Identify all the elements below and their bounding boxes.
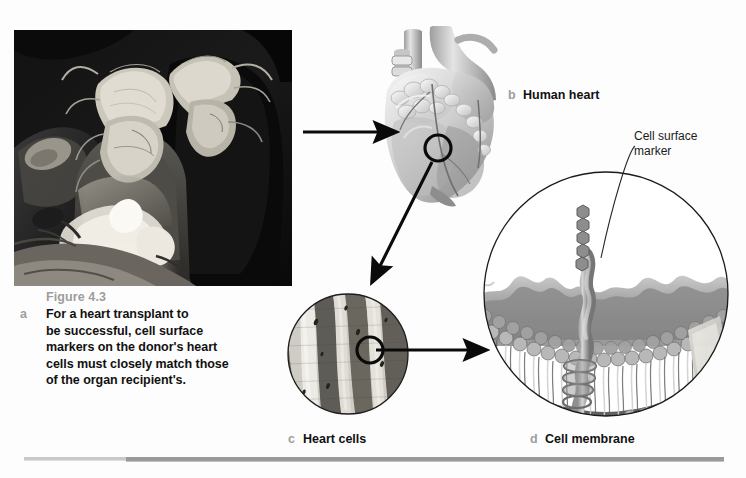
caption-line-4: cells must closely match those <box>46 357 229 371</box>
human-heart-illustration <box>360 26 508 218</box>
panel-label-text-d: Cell membrane <box>545 432 635 447</box>
panel-label-text-c: Heart cells <box>303 432 366 447</box>
carbohydrate-bead <box>576 205 589 271</box>
callout-line-2: marker <box>634 144 671 158</box>
panel-letter-a: a <box>20 306 46 323</box>
panel-letter-d: d <box>530 432 545 447</box>
caption-line-5: of the organ recipient's. <box>46 373 186 387</box>
surgery-photograph <box>14 30 292 286</box>
panel-label-text-b: Human heart <box>523 88 599 103</box>
caption-body: For a heart transplant to be successful,… <box>46 306 229 389</box>
caption-line-3: markers on the donor's heart <box>46 340 217 354</box>
figure-caption: Figure 4.3 a For a heart transplant to b… <box>20 290 270 389</box>
cell-membrane-illustration <box>482 170 730 418</box>
panel-label-c: c Heart cells <box>288 432 366 447</box>
panel-label-d: d Cell membrane <box>530 432 635 447</box>
figure-number: Figure 4.3 <box>46 290 270 305</box>
bottom-rule <box>0 452 746 464</box>
figure-root: Figure 4.3 a For a heart transplant to b… <box>0 0 746 478</box>
panel-label-b: b Human heart <box>508 88 599 103</box>
caption-row: a For a heart transplant to be successfu… <box>20 306 270 389</box>
caption-line-1: For a heart transplant to <box>46 307 189 321</box>
arrow-heart-to-cells <box>372 162 432 282</box>
cell-surface-marker-callout: Cell surface marker <box>634 129 697 159</box>
callout-leader-line <box>601 146 635 258</box>
heart-cells-micrograph <box>286 292 410 416</box>
panel-letter-c: c <box>288 432 303 447</box>
callout-line-1: Cell surface <box>634 129 697 143</box>
panel-letter-b: b <box>508 88 523 103</box>
caption-line-2: be successful, cell surface <box>46 324 203 338</box>
heart-detail-circle <box>425 135 451 161</box>
